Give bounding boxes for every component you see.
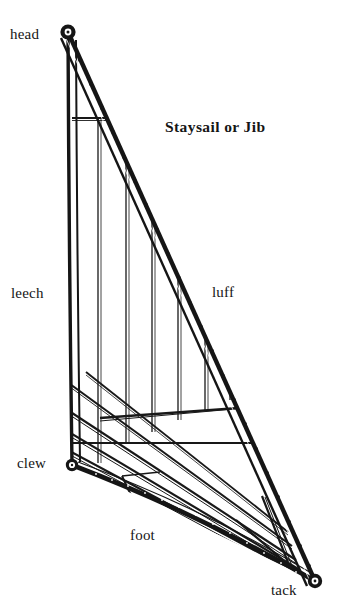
label-clew: clew (17, 456, 46, 471)
head-grommet (60, 24, 75, 39)
clew-grommet (66, 459, 78, 471)
tack-grommet (308, 574, 322, 588)
label-leech: leech (11, 286, 44, 301)
label-foot: foot (130, 528, 155, 543)
label-luff: luff (212, 285, 234, 300)
label-tack: tack (271, 583, 297, 598)
figure-title: Staysail or Jib (165, 119, 265, 135)
label-head: head (10, 27, 39, 42)
sail-diagram (0, 0, 339, 608)
